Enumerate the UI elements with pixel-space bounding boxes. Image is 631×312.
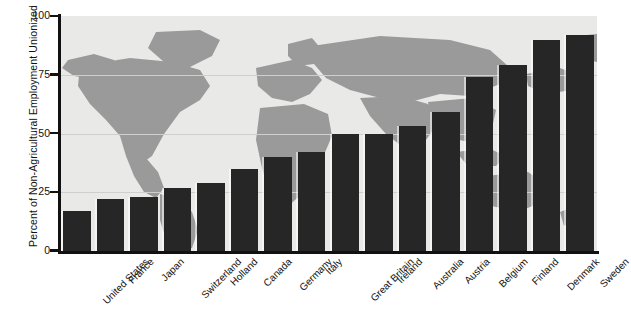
bar-rect bbox=[499, 65, 527, 251]
bar-italy bbox=[295, 16, 329, 251]
bar-sweden bbox=[563, 16, 597, 251]
y-tick-label-100: 100 bbox=[20, 9, 50, 21]
y-tick-label-0: 0 bbox=[20, 244, 50, 256]
bar-rect bbox=[97, 199, 125, 251]
bar-rect bbox=[231, 169, 259, 251]
bar-rect bbox=[365, 134, 393, 252]
bar-australia bbox=[396, 16, 430, 251]
bar-rect bbox=[63, 211, 91, 251]
y-tick-0 bbox=[50, 249, 59, 252]
x-tick-label: Sweden bbox=[598, 256, 631, 289]
bar-denmark bbox=[530, 16, 564, 251]
bar-great-britain bbox=[329, 16, 363, 251]
y-tick-25 bbox=[50, 191, 59, 194]
bar-rect bbox=[566, 35, 594, 251]
bar-japan bbox=[127, 16, 161, 251]
bar-rect bbox=[399, 126, 427, 251]
bar-austria bbox=[429, 16, 463, 251]
x-tick-label: Finland bbox=[529, 256, 560, 287]
bar-series bbox=[60, 16, 597, 251]
x-tick-label: Denmark bbox=[565, 256, 601, 292]
x-tick-label: Belgium bbox=[497, 256, 530, 289]
bar-rect bbox=[298, 152, 326, 251]
bar-rect bbox=[197, 183, 225, 251]
bar-rect bbox=[533, 40, 561, 252]
x-tick-label: Austria bbox=[462, 256, 492, 286]
x-axis-line bbox=[58, 251, 599, 254]
bar-france bbox=[94, 16, 128, 251]
bar-rect bbox=[130, 197, 158, 251]
bar-finland bbox=[496, 16, 530, 251]
bar-rect bbox=[164, 188, 192, 251]
y-tick-75 bbox=[50, 73, 59, 76]
y-tick-100 bbox=[50, 15, 59, 18]
y-tick-50 bbox=[50, 132, 59, 135]
x-axis-category-labels: United StatesFranceJapanSwitzerlandHolla… bbox=[60, 256, 597, 312]
bar-switzerland bbox=[161, 16, 195, 251]
bar-rect bbox=[466, 77, 494, 251]
x-tick-label: Australia bbox=[431, 256, 466, 291]
bar-rect bbox=[432, 112, 460, 251]
y-tick-label-50: 50 bbox=[20, 127, 50, 139]
bar-ireland bbox=[362, 16, 396, 251]
y-tick-label-75: 75 bbox=[20, 68, 50, 80]
bar-rect bbox=[264, 157, 292, 251]
x-tick-label: Canada bbox=[262, 256, 295, 289]
bar-rect bbox=[332, 134, 360, 252]
x-tick-label: Japan bbox=[159, 256, 186, 283]
bar-united-states bbox=[60, 16, 94, 251]
bar-holland bbox=[194, 16, 228, 251]
bar-belgium bbox=[463, 16, 497, 251]
y-tick-label-25: 25 bbox=[20, 185, 50, 197]
bar-canada bbox=[228, 16, 262, 251]
bar-germany bbox=[261, 16, 295, 251]
